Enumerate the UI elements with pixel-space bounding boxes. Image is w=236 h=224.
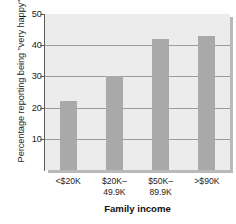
x-tick-label: $50K–89.9K <box>138 176 184 197</box>
y-tick-label: 20 <box>22 103 42 113</box>
x-tick-label-line2: 89.9K <box>138 187 184 198</box>
y-tick-mark <box>40 139 45 140</box>
y-tick-label: 10 <box>22 134 42 144</box>
bar <box>198 36 215 170</box>
x-tick-label: $20K–49.9K <box>91 176 137 197</box>
y-axis-tick-labels: 1020304050 <box>22 0 42 172</box>
x-tick-label-line1: $50K– <box>148 176 173 186</box>
y-tick-mark <box>40 76 45 77</box>
x-tick-label: <$20K <box>45 176 91 187</box>
bar <box>152 39 169 170</box>
x-tick-label-line2: 49.9K <box>91 187 137 198</box>
y-tick-label: 40 <box>22 40 42 50</box>
bar <box>106 76 123 170</box>
bar <box>60 101 77 170</box>
x-tick-label-line1: <$20K <box>56 176 81 186</box>
x-tick-label-line1: $20K– <box>102 176 127 186</box>
y-tick-label: 30 <box>22 71 42 81</box>
x-tick-label: >$90K <box>184 176 230 187</box>
x-axis-tick-labels: <$20K$20K–49.9K$50K–89.9K>$90K <box>45 176 230 204</box>
y-tick-mark <box>40 45 45 46</box>
x-tick-label-line1: >$90K <box>194 176 219 186</box>
y-tick-label: 50 <box>22 9 42 19</box>
plot-area <box>45 14 230 170</box>
x-axis-title: Family income <box>45 203 230 214</box>
y-tick-mark <box>40 108 45 109</box>
bar-chart: Percentage reporting being "very happy" … <box>0 0 236 224</box>
y-tick-mark <box>40 14 45 15</box>
